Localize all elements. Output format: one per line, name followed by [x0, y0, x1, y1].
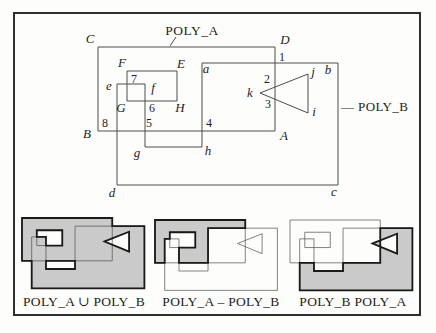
- vertex-label-B: B: [83, 126, 91, 141]
- panel-union: [22, 218, 144, 288]
- poly-b-label: — POLY_B: [340, 99, 408, 114]
- vertex-label-c: c: [331, 184, 337, 199]
- intersection-label-2: 2: [264, 72, 270, 86]
- intersection-label-4: 4: [206, 116, 212, 130]
- result-region: [22, 218, 144, 288]
- vertex-label-f: f: [151, 80, 157, 95]
- panel-union-caption: POLY_A ∪ POLY_B: [23, 294, 145, 309]
- vertex-label-j: j: [309, 64, 315, 79]
- vertex-label-D: D: [279, 32, 290, 47]
- vertex-label-h: h: [205, 143, 212, 158]
- vertex-label-k: k: [247, 85, 253, 100]
- result-region: [155, 220, 245, 263]
- figure: CDBAFEGHabcdefghjik12345678 POLY_A — POL…: [0, 0, 436, 333]
- poly-a-pointer-tick: [170, 37, 176, 46]
- vertex-label-F: F: [117, 55, 127, 70]
- vertex-label-C: C: [86, 31, 95, 46]
- intersection-label-5: 5: [146, 116, 152, 130]
- panel-b-minus-a: [290, 220, 412, 290]
- vertex-label-b: b: [325, 62, 332, 77]
- vertex-label-d: d: [109, 185, 116, 200]
- result-region: [300, 228, 413, 290]
- panel-a-minus-b-caption: POLY_A – POLY_B: [162, 294, 279, 309]
- panel-a-minus-b: [155, 220, 277, 290]
- poly-a-thin-outline: [290, 220, 380, 263]
- vertex-label-G: G: [116, 100, 126, 115]
- intersection-label-1: 1: [279, 50, 285, 64]
- panel-b-minus-a-caption: POLY_B POLY_A: [299, 294, 406, 309]
- intersection-label-8: 8: [102, 116, 108, 130]
- main-diagram-geometry: [98, 47, 338, 185]
- boolean-polygon-diagram: CDBAFEGHabcdefghjik12345678 POLY_A — POL…: [0, 0, 436, 333]
- poly-a-hole-thin-outline: [305, 232, 331, 247]
- intersection-label-3: 3: [265, 97, 271, 111]
- main-diagram-labels: CDBAFEGHabcdefghjik12345678: [83, 31, 337, 200]
- vertex-label-A: A: [279, 128, 288, 143]
- vertex-label-e: e: [106, 78, 112, 93]
- vertex-label-a: a: [203, 61, 210, 76]
- intersection-label-7: 7: [131, 72, 137, 86]
- vertex-label-g: g: [134, 145, 141, 160]
- poly-a-title: POLY_A: [165, 23, 218, 38]
- vertex-label-i: i: [312, 104, 316, 119]
- intersection-label-6: 6: [149, 101, 155, 115]
- vertex-label-E: E: [176, 56, 185, 71]
- triangle-thin-outline: [238, 234, 262, 254]
- poly-a-hole-thin-outline: [170, 232, 196, 247]
- vertex-label-H: H: [174, 100, 185, 115]
